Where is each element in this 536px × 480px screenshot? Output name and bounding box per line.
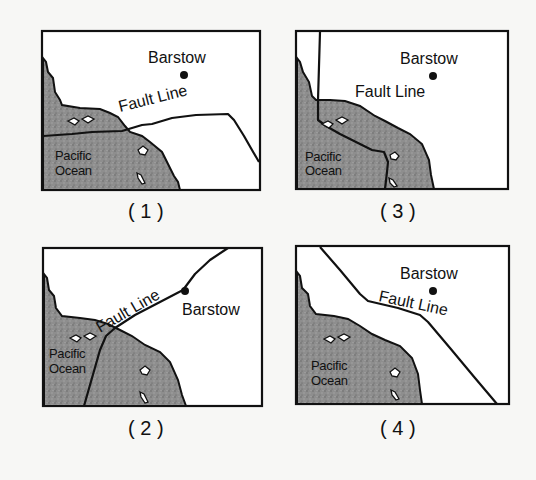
- city-label: Barstow: [182, 301, 240, 318]
- city-label: Barstow: [400, 265, 458, 282]
- barstow-dot-icon: [429, 287, 437, 295]
- fault-line-map-figure: Barstow Fault Line Pacific Ocean ( 1 ) B…: [0, 0, 536, 480]
- ocean-label-line1: Pacific: [305, 149, 342, 164]
- ocean-label-line1: Pacific: [311, 358, 348, 373]
- ocean-label-line2: Ocean: [49, 361, 86, 376]
- ocean-label-line2: Ocean: [55, 163, 92, 178]
- panel-4: Barstow Fault Line Pacific Ocean ( 4 ): [296, 246, 509, 439]
- panel-1: Barstow Fault Line Pacific Ocean ( 1 ): [42, 31, 260, 222]
- panel-caption: ( 1 ): [128, 200, 164, 222]
- barstow-dot-icon: [180, 71, 188, 79]
- panel-caption: ( 3 ): [380, 200, 416, 222]
- panel-caption: ( 4 ): [380, 417, 416, 439]
- fault-label: Fault Line: [355, 83, 425, 100]
- barstow-dot-icon: [181, 287, 189, 295]
- ocean-label-line1: Pacific: [55, 148, 92, 163]
- ocean-label-line2: Ocean: [311, 373, 348, 388]
- panel-2: Barstow Fault Line Pacific Ocean ( 2 ): [43, 248, 262, 439]
- ocean-label-line2: Ocean: [305, 163, 342, 178]
- panel-3: Barstow Fault Line Pacific Ocean ( 3 ): [296, 31, 508, 222]
- city-label: Barstow: [148, 49, 206, 66]
- ocean-label-line1: Pacific: [49, 346, 86, 361]
- panel-caption: ( 2 ): [128, 417, 164, 439]
- city-label: Barstow: [400, 50, 458, 67]
- barstow-dot-icon: [429, 72, 437, 80]
